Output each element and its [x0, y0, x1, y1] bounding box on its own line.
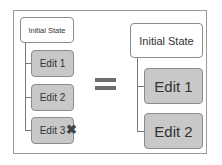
left-tree-connector — [25, 43, 26, 131]
right-initial-state-label: Initial State — [139, 35, 193, 47]
right-edit-2-label: Edit 2 — [154, 123, 192, 140]
left-initial-state-label: Initial State — [28, 26, 65, 35]
left-edit-1: Edit 1 — [31, 50, 74, 77]
right-branch-1 — [137, 86, 144, 87]
left-edit-1-label: Edit 1 — [40, 58, 66, 69]
right-tree-connector — [137, 58, 138, 131]
right-edit-1-label: Edit 1 — [154, 78, 192, 95]
right-branch-2 — [137, 131, 144, 132]
right-edit-2: Edit 2 — [144, 113, 203, 149]
right-initial-state: Initial State — [130, 23, 203, 58]
removed-x-icon: ✖ — [66, 122, 77, 137]
left-edit-2-label: Edit 2 — [40, 92, 66, 103]
left-initial-state: Initial State — [20, 17, 74, 43]
left-edit-2: Edit 2 — [31, 84, 74, 111]
left-edit-3-label: Edit 3 — [40, 125, 66, 136]
right-edit-1: Edit 1 — [144, 68, 203, 104]
